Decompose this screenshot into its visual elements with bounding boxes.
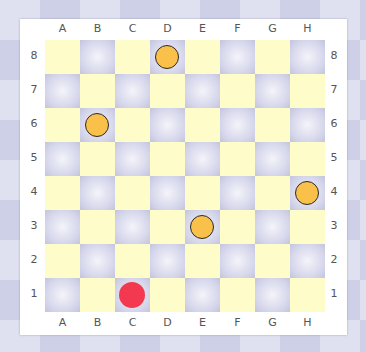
square-g5[interactable] [255,142,290,176]
square-e7[interactable] [185,74,220,108]
square-c4[interactable] [115,176,150,210]
file-label-top-f: F [220,22,255,35]
rank-label-left-5: 5 [24,151,44,164]
rank-label-left-3: 3 [24,219,44,232]
file-label-bottom-c: C [115,316,150,329]
square-f5[interactable] [220,142,255,176]
square-h2[interactable] [290,244,325,278]
square-d6[interactable] [150,108,185,142]
square-b6[interactable] [80,108,115,142]
square-f8[interactable] [220,40,255,74]
square-a4[interactable] [45,176,80,210]
square-g4[interactable] [255,176,290,210]
file-label-top-e: E [185,22,220,35]
square-c3[interactable] [115,210,150,244]
square-a3[interactable] [45,210,80,244]
file-label-top-b: B [80,22,115,35]
square-e8[interactable] [185,40,220,74]
square-e2[interactable] [185,244,220,278]
square-a1[interactable] [45,278,80,312]
file-label-bottom-g: G [255,316,290,329]
square-g3[interactable] [255,210,290,244]
file-label-bottom-e: E [185,316,220,329]
square-e3[interactable] [185,210,220,244]
yellow-piece-e3[interactable] [190,215,214,239]
square-a8[interactable] [45,40,80,74]
file-label-bottom-h: H [290,316,325,329]
file-label-top-h: H [290,22,325,35]
file-label-top-d: D [150,22,185,35]
square-b5[interactable] [80,142,115,176]
square-h8[interactable] [290,40,325,74]
rank-label-right-5: 5 [324,151,344,164]
square-d7[interactable] [150,74,185,108]
file-label-bottom-a: A [45,316,80,329]
square-e4[interactable] [185,176,220,210]
square-d3[interactable] [150,210,185,244]
yellow-piece-b6[interactable] [85,113,109,137]
square-h7[interactable] [290,74,325,108]
square-d4[interactable] [150,176,185,210]
square-g8[interactable] [255,40,290,74]
square-f1[interactable] [220,278,255,312]
square-b4[interactable] [80,176,115,210]
square-b2[interactable] [80,244,115,278]
rank-label-right-8: 8 [324,49,344,62]
square-c2[interactable] [115,244,150,278]
square-h1[interactable] [290,278,325,312]
square-a7[interactable] [45,74,80,108]
square-c6[interactable] [115,108,150,142]
square-d5[interactable] [150,142,185,176]
rank-label-left-8: 8 [24,49,44,62]
square-c1[interactable] [115,278,150,312]
square-d2[interactable] [150,244,185,278]
square-b3[interactable] [80,210,115,244]
rank-label-left-6: 6 [24,117,44,130]
square-f2[interactable] [220,244,255,278]
rank-label-right-1: 1 [324,287,344,300]
checkers-board[interactable] [45,40,325,312]
yellow-piece-h4[interactable] [295,181,319,205]
square-h6[interactable] [290,108,325,142]
square-h5[interactable] [290,142,325,176]
rank-label-right-2: 2 [324,253,344,266]
square-e5[interactable] [185,142,220,176]
file-label-top-g: G [255,22,290,35]
file-label-top-a: A [45,22,80,35]
square-b8[interactable] [80,40,115,74]
square-c8[interactable] [115,40,150,74]
square-e6[interactable] [185,108,220,142]
square-f4[interactable] [220,176,255,210]
file-label-bottom-f: F [220,316,255,329]
rank-label-right-7: 7 [324,83,344,96]
rank-label-left-7: 7 [24,83,44,96]
file-label-top-c: C [115,22,150,35]
square-e1[interactable] [185,278,220,312]
square-f7[interactable] [220,74,255,108]
square-c5[interactable] [115,142,150,176]
square-a5[interactable] [45,142,80,176]
square-c7[interactable] [115,74,150,108]
square-d8[interactable] [150,40,185,74]
square-g7[interactable] [255,74,290,108]
square-h4[interactable] [290,176,325,210]
rank-label-right-6: 6 [324,117,344,130]
rank-label-left-1: 1 [24,287,44,300]
rank-label-right-4: 4 [324,185,344,198]
square-d1[interactable] [150,278,185,312]
square-g1[interactable] [255,278,290,312]
square-b1[interactable] [80,278,115,312]
square-b7[interactable] [80,74,115,108]
square-g2[interactable] [255,244,290,278]
rank-label-right-3: 3 [324,219,344,232]
square-h3[interactable] [290,210,325,244]
file-label-bottom-b: B [80,316,115,329]
square-f6[interactable] [220,108,255,142]
red-piece-c1[interactable] [119,282,145,308]
square-g6[interactable] [255,108,290,142]
square-a6[interactable] [45,108,80,142]
square-a2[interactable] [45,244,80,278]
yellow-piece-d8[interactable] [155,45,179,69]
rank-label-left-2: 2 [24,253,44,266]
square-f3[interactable] [220,210,255,244]
